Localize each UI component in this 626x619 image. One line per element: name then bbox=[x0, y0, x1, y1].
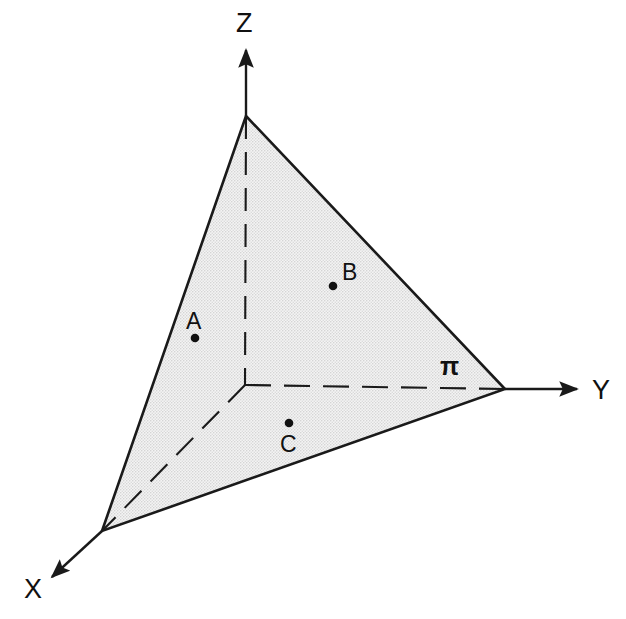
point-b-dot bbox=[329, 282, 338, 291]
point-a-label: A bbox=[186, 308, 202, 334]
x-axis-ray bbox=[52, 531, 102, 577]
point-a-dot bbox=[191, 334, 200, 343]
diagram-canvas: Z Y X π A B C bbox=[0, 0, 626, 619]
plane-label-pi: π bbox=[440, 352, 459, 380]
point-c-dot bbox=[285, 419, 294, 428]
axis-label-x: X bbox=[24, 574, 42, 604]
point-c-label: C bbox=[280, 431, 297, 457]
axis-label-y: Y bbox=[592, 375, 610, 405]
point-b-label: B bbox=[342, 259, 357, 285]
figure-root: Z Y X π A B C bbox=[0, 0, 626, 619]
axis-label-z: Z bbox=[236, 8, 253, 38]
